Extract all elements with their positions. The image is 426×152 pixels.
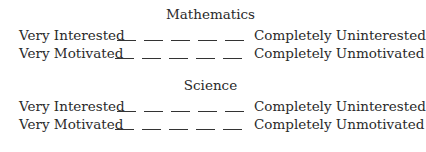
right-anchor-label: Completely Unmotivated — [254, 116, 424, 132]
section-title: Science — [0, 77, 421, 93]
rating-blank-3[interactable] — [171, 111, 190, 112]
rating-blank-3[interactable] — [169, 58, 188, 59]
rating-blank-4[interactable] — [198, 40, 217, 41]
rating-blank-2[interactable] — [144, 40, 163, 41]
left-anchor-label: Very Interested — [19, 98, 125, 114]
rating-blank-3[interactable] — [171, 40, 190, 41]
rating-blank-4[interactable] — [198, 111, 217, 112]
rating-blank-3[interactable] — [169, 129, 188, 130]
right-anchor-label: Completely Unmotivated — [254, 45, 424, 61]
right-anchor-label: Completely Uninterested — [254, 27, 426, 43]
rating-blank-2[interactable] — [144, 111, 163, 112]
rating-blank-4[interactable] — [196, 58, 215, 59]
left-anchor-label: Very Motivated — [19, 116, 123, 132]
rating-row-motivation: Very Motivated Completely Unmotivated — [19, 116, 419, 134]
rating-blank-5[interactable] — [223, 129, 242, 130]
rating-blank-1[interactable] — [117, 111, 136, 112]
rating-blank-2[interactable] — [142, 129, 161, 130]
left-anchor-label: Very Motivated — [19, 45, 123, 61]
section-title: Mathematics — [0, 6, 421, 22]
rating-row-interest: Very Interested Completely Uninterested — [19, 27, 419, 45]
rating-blank-5[interactable] — [225, 40, 244, 41]
rating-blank-1[interactable] — [117, 40, 136, 41]
rating-blank-5[interactable] — [223, 58, 242, 59]
rating-row-motivation: Very Motivated Completely Unmotivated — [19, 45, 419, 63]
rating-blank-1[interactable] — [115, 129, 134, 130]
rating-blank-5[interactable] — [225, 111, 244, 112]
right-anchor-label: Completely Uninterested — [254, 98, 426, 114]
rating-blank-4[interactable] — [196, 129, 215, 130]
rating-blank-1[interactable] — [115, 58, 134, 59]
rating-row-interest: Very Interested Completely Uninterested — [19, 98, 419, 116]
left-anchor-label: Very Interested — [19, 27, 125, 43]
rating-blank-2[interactable] — [142, 58, 161, 59]
